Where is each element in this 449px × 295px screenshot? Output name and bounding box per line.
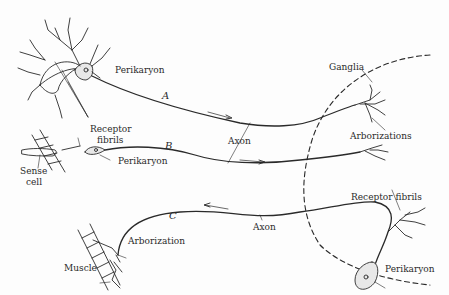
label-pathway-a: A bbox=[162, 91, 169, 101]
label-receptor-fibrils-left-2: fibrils bbox=[97, 135, 123, 145]
label-sense-cell-1: Sense bbox=[20, 166, 47, 176]
diagram-drawing bbox=[0, 0, 449, 295]
label-axon-c: Axon bbox=[253, 222, 276, 232]
label-axon-ab: Axon bbox=[228, 136, 251, 146]
axon-a bbox=[92, 76, 355, 126]
label-sense-cell-2: cell bbox=[26, 177, 42, 187]
label-receptor-fibrils-right: Receptor fibrils bbox=[351, 192, 422, 202]
ganglia-boundary bbox=[304, 55, 430, 285]
label-perikaryon-a: Perikaryon bbox=[115, 65, 165, 75]
label-pathway-c: C bbox=[169, 211, 177, 221]
label-perikaryon-b: Perikaryon bbox=[118, 156, 168, 166]
label-muscle: Muscle bbox=[64, 263, 97, 273]
label-receptor-fibrils-left-1: Receptor bbox=[90, 124, 132, 134]
neuron-diagram: Perikaryon A Receptor fibrils B Perikary… bbox=[0, 0, 449, 295]
label-ganglia: Ganglia bbox=[329, 62, 364, 72]
label-arborizations: Arborizations bbox=[350, 131, 412, 141]
label-arborization: Arborization bbox=[128, 236, 185, 246]
label-perikaryon-c: Perikaryon bbox=[385, 264, 435, 274]
label-pathway-b: B bbox=[165, 141, 172, 151]
